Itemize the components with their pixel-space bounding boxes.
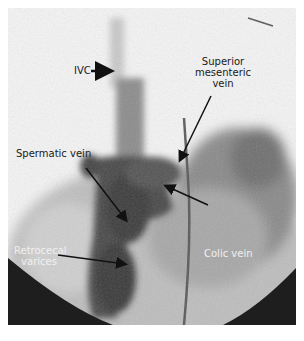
spermatic-arrow bbox=[86, 168, 126, 220]
retrocecal-line1: Retrocecal bbox=[14, 245, 64, 256]
retrocecal-varices-label: Retrocecal varices bbox=[14, 245, 64, 267]
smv-label-line2: mesenteric bbox=[193, 67, 253, 78]
smv-label: Superior mesenteric vein bbox=[193, 56, 253, 89]
angiogram-image: IVC Superior mesenteric vein Spermatic v… bbox=[8, 8, 296, 325]
spermatic-vein-label: Spermatic vein bbox=[16, 148, 91, 159]
colic-vein-label: Colic vein bbox=[204, 248, 253, 259]
smv-arrow bbox=[180, 96, 211, 160]
smv-label-line3: vein bbox=[193, 78, 253, 89]
retrocecal-line2: varices bbox=[14, 256, 64, 267]
colic-arrow bbox=[166, 186, 208, 205]
ivc-label: IVC bbox=[74, 65, 91, 76]
retrocecal-arrow bbox=[58, 255, 125, 264]
smv-label-line1: Superior bbox=[193, 56, 253, 67]
